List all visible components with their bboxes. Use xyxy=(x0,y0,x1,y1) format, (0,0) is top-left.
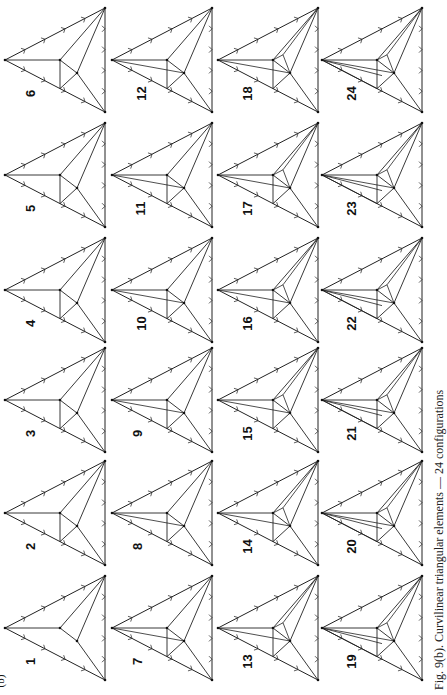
triangle-diagram xyxy=(4,460,107,567)
triangle-diagram xyxy=(4,7,107,114)
triangle-diagram xyxy=(321,7,424,114)
diagram-number: 1 xyxy=(23,658,38,665)
diagram-number: 19 xyxy=(344,654,359,668)
diagram-number: 23 xyxy=(344,201,359,215)
triangle-diagram xyxy=(111,575,214,682)
diagram-number: 10 xyxy=(134,316,149,330)
triangle-diagram xyxy=(217,237,320,344)
triangle-diagram xyxy=(217,460,320,567)
triangle-diagram xyxy=(321,575,424,682)
diagram-number: 6 xyxy=(23,90,38,97)
diagram-number: 14 xyxy=(240,539,255,553)
triangle-diagram xyxy=(111,347,214,454)
diagram-number: 13 xyxy=(240,654,255,668)
triangle-diagram xyxy=(111,122,214,229)
diagram-number: 16 xyxy=(240,316,255,330)
triangle-diagram xyxy=(321,347,424,454)
diagram-number: 21 xyxy=(344,426,359,440)
diagram-number: 20 xyxy=(344,539,359,553)
diagram-number: 4 xyxy=(23,320,38,327)
diagram-number: 7 xyxy=(130,658,145,665)
triangle-diagram xyxy=(111,237,214,344)
triangle-diagram xyxy=(321,237,424,344)
triangle-diagram xyxy=(321,122,424,229)
diagram-number: 2 xyxy=(23,543,38,550)
diagram-number: 3 xyxy=(23,430,38,437)
triangle-diagram xyxy=(4,122,107,229)
diagram-number: 9 xyxy=(130,430,145,437)
diagram-number: 12 xyxy=(134,86,149,100)
diagram-number: 8 xyxy=(130,543,145,550)
triangle-diagram xyxy=(111,7,214,114)
diagram-number: 17 xyxy=(240,201,255,215)
diagram-number: 11 xyxy=(133,202,148,216)
triangle-diagram xyxy=(217,122,320,229)
diagram-number: 18 xyxy=(240,86,255,100)
figure-caption: Fig. 9(b). Curvilinear triangular elemen… xyxy=(432,370,447,690)
triangle-diagram xyxy=(111,460,214,567)
triangle-diagram xyxy=(217,575,320,682)
triangle-diagram xyxy=(321,460,424,567)
triangle-diagram xyxy=(217,7,320,114)
diagram-number: 15 xyxy=(240,426,255,440)
triangle-diagram xyxy=(4,347,107,454)
triangle-diagram xyxy=(217,347,320,454)
triangle-diagram xyxy=(4,575,107,682)
diagram-number: 5 xyxy=(23,205,38,212)
diagram-number: 22 xyxy=(344,316,359,330)
part-label: (b) xyxy=(0,675,6,688)
diagram-number: 24 xyxy=(344,86,359,100)
triangle-diagram xyxy=(4,237,107,344)
